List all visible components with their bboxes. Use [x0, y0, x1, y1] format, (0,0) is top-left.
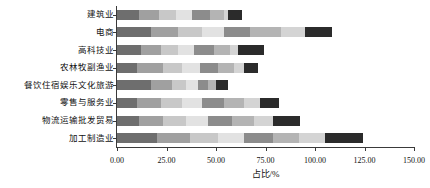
x-axis-tick-label: 100.00 [304, 156, 326, 166]
bar-segment [137, 98, 161, 108]
bar-stacked [117, 98, 279, 108]
bar-segment [210, 10, 224, 20]
category-label: 电商 [96, 27, 114, 37]
chart-container: 建筑业电商高科技业农林牧副渔业餐饮住宿娱乐文化旅游零售与服务业物流运输批发贸易加… [0, 0, 430, 188]
category-label: 物流运输批发贸易 [42, 115, 114, 125]
x-axis-tick-label: 50.00 [207, 156, 225, 166]
bar-segment [232, 116, 254, 126]
bar-segment [224, 27, 250, 37]
bar-segment [151, 80, 173, 90]
bar-segment [238, 45, 265, 55]
bar-segment [250, 27, 282, 37]
x-axis-tick-label: 0.00 [110, 156, 124, 166]
bar-segment [182, 98, 202, 108]
bar-segment [117, 27, 151, 37]
y-axis-tick [113, 138, 117, 139]
x-axis-tick [117, 147, 118, 151]
bar-stacked [117, 80, 228, 90]
bar-segment [186, 116, 208, 126]
x-axis-tick [414, 147, 415, 151]
category-label: 餐饮住宿娱乐文化旅游 [24, 80, 114, 90]
x-axis-tick [266, 147, 267, 151]
bar-segment [117, 80, 151, 90]
bar-segment [218, 63, 234, 73]
x-axis-tick-label: 150.00 [403, 156, 425, 166]
bar-segment [176, 10, 192, 20]
x-axis-tick [216, 147, 217, 151]
category-label: 零售与服务业 [60, 97, 114, 107]
bar-segment [182, 63, 200, 73]
bar-segment [159, 10, 177, 20]
bar-segment [117, 63, 137, 73]
bar-stacked [117, 63, 258, 73]
bar-segment [117, 10, 139, 20]
bar-segment [299, 133, 325, 143]
y-axis-tick [113, 121, 117, 122]
bar-segment [200, 63, 218, 73]
x-axis-title: 占比/% [117, 169, 414, 180]
bar-segment [202, 27, 224, 37]
bar-segment [117, 116, 139, 126]
y-axis-tick [113, 15, 117, 16]
category-label: 加工制造业 [69, 133, 114, 143]
x-axis-tick [315, 147, 316, 151]
bar-segment [161, 98, 183, 108]
category-label: 农林牧副渔业 [60, 62, 114, 72]
y-axis-tick [113, 85, 117, 86]
bar-stacked [117, 116, 300, 126]
bar-segment [190, 133, 218, 143]
bar-segment [117, 45, 141, 55]
bar-segment [218, 133, 244, 143]
bar-segment [172, 80, 186, 90]
bar-segment [273, 133, 299, 143]
bar-segment [244, 133, 274, 143]
bar-segment [151, 27, 179, 37]
bar-stacked [117, 27, 332, 37]
bar-segment [194, 45, 214, 55]
bar-segment [230, 45, 238, 55]
bar-segment [208, 116, 232, 126]
y-axis-tick [113, 103, 117, 104]
bar-segment [228, 10, 242, 20]
bar-segment [244, 98, 260, 108]
bar-segment [234, 63, 244, 73]
bar-segment [157, 133, 191, 143]
bar-segment [305, 27, 332, 37]
x-axis-line [116, 147, 414, 148]
x-axis-tick-label: 125.00 [354, 156, 376, 166]
bar-segment [139, 116, 163, 126]
x-axis-tick-label: 75.00 [257, 156, 275, 166]
bar-segment [141, 45, 161, 55]
bar-segment [186, 80, 198, 90]
bar-segment [117, 133, 157, 143]
y-axis-tick [113, 32, 117, 33]
bar-segment [163, 116, 187, 126]
bar-segment [117, 98, 137, 108]
bar-segment [273, 116, 300, 126]
bar-segment [208, 80, 216, 90]
bar-segment [260, 98, 280, 108]
bar-segment [244, 63, 258, 73]
bar-segment [137, 63, 163, 73]
bar-stacked [117, 45, 264, 55]
bar-segment [254, 116, 274, 126]
bar-segment [214, 45, 230, 55]
bar-segment [178, 45, 194, 55]
x-axis-tick-label: 25.00 [158, 156, 176, 166]
y-axis-tick [113, 50, 117, 51]
bar-segment [216, 80, 228, 90]
y-axis-tick [113, 68, 117, 69]
plot-area: 0.0025.0050.0075.00100.00125.00150.00 占比… [117, 6, 414, 147]
bar-segment [161, 45, 179, 55]
bar-segment [139, 10, 159, 20]
bar-segment [224, 98, 244, 108]
bar-segment [202, 98, 224, 108]
bar-segment [178, 27, 202, 37]
category-label: 高科技业 [78, 45, 114, 55]
bar-segment [192, 10, 210, 20]
x-axis-tick [167, 147, 168, 151]
x-axis-tick [365, 147, 366, 151]
bar-segment [281, 27, 305, 37]
bar-segment [325, 133, 364, 143]
category-label: 建筑业 [87, 9, 114, 19]
